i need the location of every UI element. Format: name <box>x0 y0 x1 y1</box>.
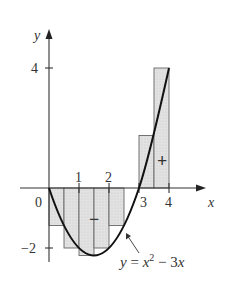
x-tick-label-1: 1 <box>75 170 82 185</box>
y-tick-label-neg2: −2 <box>21 241 36 256</box>
negative-sign: − <box>89 209 99 229</box>
x-tick-label-3: 3 <box>140 195 147 210</box>
function-label: y = x2 − 3x <box>118 252 185 270</box>
y-axis-label: y <box>32 28 41 43</box>
label-pointer <box>127 235 139 253</box>
function-label-rest: − 3 <box>154 254 177 270</box>
y-axis-arrow-icon <box>46 29 53 39</box>
function-label-eq: = <box>127 254 143 270</box>
x-axis-arrow-icon <box>196 185 206 192</box>
rectangle-5 <box>109 188 124 226</box>
function-label-x2: x <box>177 254 185 270</box>
x-tick-label-2: 2 <box>105 170 112 185</box>
y-tick-label-4: 4 <box>31 61 38 76</box>
riemann-sum-diagram: y x 4 −2 0 1 2 3 4 − + y = x2 − 3x <box>0 0 232 292</box>
x-axis-label: x <box>207 195 215 210</box>
origin-label: 0 <box>35 195 42 210</box>
x-tick-label-4: 4 <box>165 195 172 210</box>
axes <box>20 36 200 262</box>
positive-sign: + <box>157 151 167 171</box>
riemann-rectangles <box>49 68 169 256</box>
function-label-y: y <box>118 254 127 270</box>
label-pointer-arrow-icon <box>126 233 131 240</box>
